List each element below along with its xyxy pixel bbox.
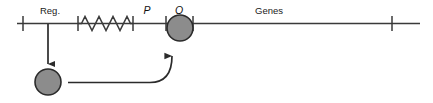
protein-to-operator-arrow [68,56,172,83]
operon-diagram: Reg. P O Genes [0,0,433,103]
operator-bound-repressor-circle [167,15,193,41]
operator-label: O [175,4,183,16]
promoter-label: P [143,4,150,16]
diagram-canvas: Reg. P O Genes [0,0,433,103]
genes-label: Genes [255,5,283,16]
regulator-label: Reg. [40,5,60,16]
repressor-circle [35,69,61,95]
